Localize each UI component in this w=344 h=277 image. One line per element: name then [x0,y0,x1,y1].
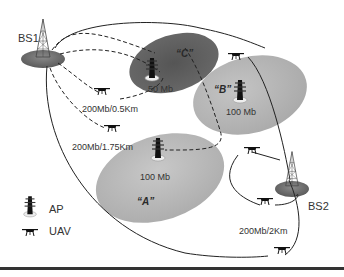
ap-c-icon [145,58,159,81]
link-label-2km: 200Mb/2Km [239,226,288,236]
ap-c-capacity: 50 Mb [148,84,173,94]
bs2-label: BS2 [308,200,329,212]
network-diagram: BS1 BS2 “C” 50 Mb “B” 100 Mb “A” 100 Mb … [0,0,344,277]
ap-b-capacity: 100 Mb [226,107,256,117]
ap-b-icon [233,80,247,103]
zone-a-label: “A” [137,196,154,207]
ap-a-capacity: 100 Mb [140,172,170,182]
bs1-label: BS1 [18,32,39,44]
bottom-divider [0,267,344,270]
ap-a-icon [151,138,165,161]
uav-icon [22,229,38,236]
uav-icon [257,198,273,205]
link-label-0-5km: 200Mb/0.5Km [82,104,138,114]
zone-b-label: “B” [214,84,231,95]
zone-c-label: “C” [176,48,193,59]
link-label-1-75km: 200Mb/1.75Km [72,142,133,152]
legend-ap-label: AP [49,203,64,215]
access-point-icon [24,196,37,217]
uav-icon [104,125,120,132]
uav-icon [244,147,260,154]
legend-uav-label: UAV [49,225,71,237]
